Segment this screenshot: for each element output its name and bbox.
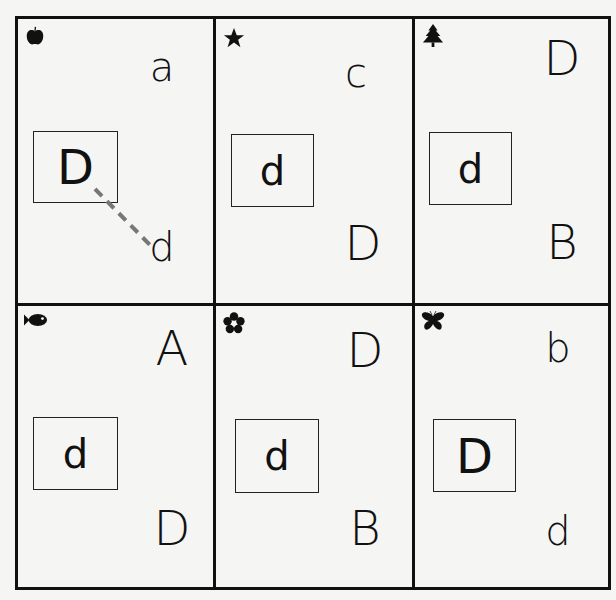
choice-letter-top[interactable]: a bbox=[150, 47, 175, 87]
choice-letter-top[interactable]: D bbox=[544, 34, 581, 82]
choice-letter-bottom[interactable]: D bbox=[345, 219, 382, 267]
flower-icon bbox=[223, 312, 245, 334]
worksheet-cell-4: A d D bbox=[18, 306, 213, 587]
target-letter: D bbox=[456, 432, 493, 480]
choice-letter-top[interactable]: b bbox=[545, 328, 570, 368]
worksheet-cell-3: D d B bbox=[415, 19, 608, 303]
choice-letter-bottom[interactable]: d bbox=[149, 227, 174, 267]
target-letter-box: D bbox=[33, 131, 118, 203]
tree-icon bbox=[422, 24, 444, 48]
apple-icon bbox=[24, 25, 46, 47]
worksheet-cell-2: c d D bbox=[216, 19, 412, 303]
target-letter-box: d bbox=[33, 417, 118, 490]
target-letter-box: D bbox=[433, 419, 516, 492]
target-letter-box: d bbox=[429, 132, 512, 205]
target-letter-box: d bbox=[235, 419, 319, 493]
choice-letter-bottom[interactable]: B bbox=[349, 504, 380, 552]
worksheet-cell-1: a D d bbox=[18, 19, 213, 303]
worksheet-page: a D d c d D D d B bbox=[0, 0, 616, 600]
worksheet-cell-5: D d B bbox=[216, 306, 412, 587]
butterfly-icon bbox=[421, 310, 445, 332]
target-letter: d bbox=[458, 149, 483, 189]
worksheet-cell-6: b D d bbox=[415, 306, 608, 587]
choice-letter-top[interactable]: A bbox=[156, 324, 189, 372]
target-letter: d bbox=[260, 151, 285, 191]
choice-letter-bottom[interactable]: B bbox=[546, 218, 577, 266]
fish-icon bbox=[24, 312, 48, 328]
choice-letter-bottom[interactable]: D bbox=[154, 504, 191, 552]
target-letter: d bbox=[63, 434, 88, 474]
choice-letter-top[interactable]: c bbox=[345, 53, 367, 93]
choice-letter-top[interactable]: D bbox=[347, 326, 384, 374]
choice-letter-bottom[interactable]: d bbox=[545, 511, 570, 551]
target-letter-box: d bbox=[231, 134, 314, 207]
star-icon bbox=[223, 27, 245, 49]
target-letter: D bbox=[57, 143, 94, 191]
target-letter: d bbox=[264, 436, 289, 476]
